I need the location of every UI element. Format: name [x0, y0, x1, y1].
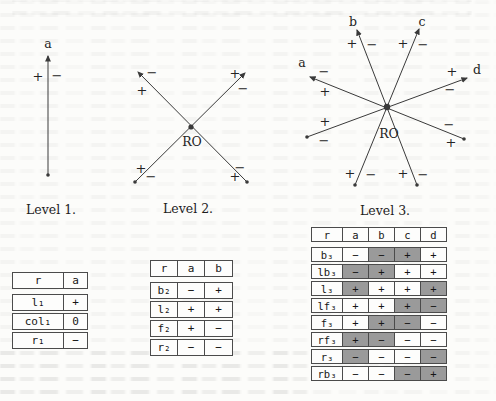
- origin-dot: [46, 173, 50, 177]
- table-cell: +: [421, 247, 447, 262]
- table-row: rb₃ − − − +: [311, 366, 447, 381]
- row-label: rf₃: [311, 332, 343, 347]
- table-cell: −: [64, 332, 88, 349]
- table-cell: +: [369, 264, 395, 279]
- table-cell: −: [343, 349, 369, 364]
- level3-diagram: RO a b c d + − + − − + + − + − − + + − +…: [296, 8, 486, 193]
- table-row: rf₃ + − − −: [311, 332, 447, 347]
- table-cell: −: [369, 349, 395, 364]
- plus-sign: +: [33, 69, 44, 84]
- end-dot: [415, 183, 419, 187]
- plus-sign: +: [137, 83, 148, 98]
- row-label: b₃: [311, 247, 343, 262]
- table-cell: −: [369, 366, 395, 381]
- column-header: b: [205, 260, 233, 277]
- table-cell: +: [421, 281, 447, 296]
- reference-origin-label: RO: [182, 134, 202, 149]
- table-cell: −: [205, 320, 233, 337]
- reference-origin-dot: [188, 124, 193, 129]
- plus-sign: +: [230, 169, 241, 184]
- plus-sign: +: [347, 36, 358, 51]
- table-row: lb₃ − + + +: [311, 264, 447, 279]
- table-cell: +: [395, 247, 421, 262]
- table-cell: −: [421, 298, 447, 313]
- table-cell: −: [178, 339, 205, 356]
- row-label: l₃: [311, 281, 343, 296]
- table-cell: +: [395, 298, 421, 313]
- table-cell: −: [343, 247, 369, 262]
- column-header: c: [395, 227, 421, 242]
- table-cell: +: [369, 315, 395, 330]
- axis-label-c: c: [418, 14, 425, 29]
- table-row: f₃ + + − −: [311, 315, 447, 330]
- minus-sign: −: [52, 68, 63, 83]
- table-cell: +: [421, 264, 447, 279]
- table-cell: +: [205, 282, 233, 299]
- table-row: r₃ − − − −: [311, 349, 447, 364]
- level2-diagram: RO − + + − + − − +: [125, 60, 260, 190]
- column-header: d: [421, 227, 447, 242]
- plus-sign: +: [320, 84, 331, 99]
- table-row: b₃ − − + +: [311, 247, 447, 262]
- table-row: l₃ + + + +: [311, 281, 447, 296]
- table-cell: +: [395, 281, 421, 296]
- row-label: r₁: [12, 332, 64, 349]
- plus-sign: +: [398, 166, 409, 181]
- level3-table: r a b c d b₃ − − + + lb₃ − + + +: [311, 227, 447, 383]
- column-header: b: [369, 227, 395, 242]
- minus-sign: −: [444, 117, 455, 132]
- table-cell: +: [421, 366, 447, 381]
- minus-sign: −: [367, 37, 378, 52]
- axis-label-a: a: [44, 36, 52, 51]
- level1-caption: Level 1.: [26, 202, 76, 217]
- plus-sign: +: [447, 64, 458, 79]
- table-cell: −: [395, 315, 421, 330]
- table-cell: −: [395, 366, 421, 381]
- table-cell: −: [178, 282, 205, 299]
- axis-label-b: b: [349, 14, 357, 29]
- table-cell: +: [395, 264, 421, 279]
- table-row: f₂ + −: [150, 320, 233, 337]
- level1-table: r a l₁ + col₁ 0 r₁ −: [12, 272, 88, 351]
- table-row: r₂ − −: [150, 339, 233, 356]
- table-row: b₂ − +: [150, 282, 233, 299]
- end-dot: [305, 135, 309, 139]
- reference-origin-dot: [384, 104, 390, 110]
- minus-sign: −: [418, 167, 429, 182]
- table-cell: −: [369, 247, 395, 262]
- axis-label-a: a: [298, 55, 306, 70]
- table-cell: +: [178, 301, 205, 318]
- table-cell: +: [369, 281, 395, 296]
- scanned-paper-page: a + − Level 1. RO − + + − + − − + Level …: [0, 0, 496, 401]
- table-cell: −: [421, 315, 447, 330]
- minus-sign: −: [146, 169, 157, 184]
- minus-sign: −: [418, 37, 429, 52]
- row-label: r₂: [150, 339, 178, 356]
- table-row: col₁ 0: [12, 313, 88, 330]
- table-cell: +: [343, 315, 369, 330]
- table-cell: −: [369, 332, 395, 347]
- table-cell: −: [395, 349, 421, 364]
- column-header: a: [178, 260, 205, 277]
- plus-sign: +: [230, 66, 241, 81]
- column-header: a: [64, 272, 88, 289]
- end-dot: [353, 183, 357, 187]
- plus-sign: +: [446, 135, 457, 150]
- minus-sign: −: [238, 81, 249, 96]
- level3-caption: Level 3.: [360, 203, 410, 218]
- table-row: l₁ +: [12, 294, 88, 311]
- table-cell: +: [178, 320, 205, 337]
- end-dot: [133, 180, 137, 184]
- row-label: lb₃: [311, 264, 343, 279]
- row-label: lf₃: [311, 298, 343, 313]
- table-cell: −: [343, 264, 369, 279]
- row-label: f₃: [311, 315, 343, 330]
- minus-sign: −: [445, 82, 456, 97]
- table-cell: −: [395, 332, 421, 347]
- plus-sign: +: [345, 166, 356, 181]
- table-cell: 0: [64, 313, 88, 330]
- plus-sign: +: [320, 114, 331, 129]
- row-label: f₂: [150, 320, 178, 337]
- table-row: lf₃ + + + −: [311, 298, 447, 313]
- reference-origin-label: RO: [379, 126, 399, 141]
